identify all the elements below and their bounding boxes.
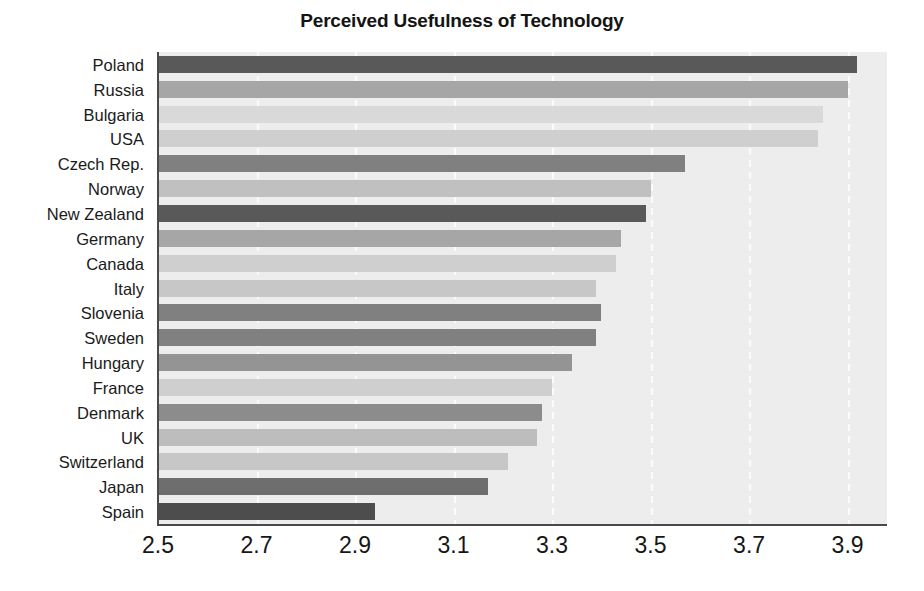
category-label-spain: Spain bbox=[0, 504, 151, 521]
bar-slovenia bbox=[158, 304, 601, 321]
category-label-japan: Japan bbox=[0, 479, 151, 496]
category-label-russia: Russia bbox=[0, 82, 151, 99]
bar-czech-rep bbox=[158, 155, 685, 172]
x-tick-label-2.7: 2.7 bbox=[241, 533, 273, 557]
bar-japan bbox=[158, 478, 488, 495]
bar-italy bbox=[158, 280, 596, 297]
category-label-germany: Germany bbox=[0, 231, 151, 248]
bar-usa bbox=[158, 130, 818, 147]
x-axis-tick-labels: 2.52.72.93.13.33.53.73.9 bbox=[0, 533, 924, 573]
category-label-new-zealand: New Zealand bbox=[0, 206, 151, 223]
gridline-3.7 bbox=[749, 52, 751, 524]
category-label-denmark: Denmark bbox=[0, 405, 151, 422]
category-label-poland: Poland bbox=[0, 57, 151, 74]
category-label-norway: Norway bbox=[0, 181, 151, 198]
plot-area bbox=[158, 52, 887, 524]
bar-sweden bbox=[158, 329, 596, 346]
category-label-usa: USA bbox=[0, 131, 151, 148]
bar-switzerland bbox=[158, 453, 508, 470]
gridline-3.5 bbox=[651, 52, 653, 524]
bar-russia bbox=[158, 81, 848, 98]
x-tick-label-3.9: 3.9 bbox=[832, 533, 864, 557]
x-tick-label-3.3: 3.3 bbox=[536, 533, 568, 557]
x-tick-label-3.7: 3.7 bbox=[733, 533, 765, 557]
bar-uk bbox=[158, 429, 537, 446]
x-tick-label-2.9: 2.9 bbox=[339, 533, 371, 557]
bar-poland bbox=[158, 56, 857, 73]
category-label-sweden: Sweden bbox=[0, 330, 151, 347]
x-axis-line bbox=[157, 524, 887, 526]
x-tick-label-3.1: 3.1 bbox=[438, 533, 470, 557]
category-label-hungary: Hungary bbox=[0, 355, 151, 372]
category-label-canada: Canada bbox=[0, 256, 151, 273]
gridline-3.9 bbox=[848, 52, 850, 524]
category-axis-labels: PolandRussiaBulgariaUSACzech Rep.NorwayN… bbox=[0, 52, 151, 524]
category-label-switzerland: Switzerland bbox=[0, 454, 151, 471]
y-axis-line bbox=[157, 52, 159, 525]
x-tick-label-2.5: 2.5 bbox=[142, 533, 174, 557]
category-label-france: France bbox=[0, 380, 151, 397]
category-label-czech-rep: Czech Rep. bbox=[0, 156, 151, 173]
chart-title: Perceived Usefulness of Technology bbox=[0, 10, 924, 32]
category-label-uk: UK bbox=[0, 430, 151, 447]
bar-hungary bbox=[158, 354, 572, 371]
bar-chart: Perceived Usefulness of Technology Polan… bbox=[0, 0, 924, 591]
bar-new-zealand bbox=[158, 205, 646, 222]
bar-denmark bbox=[158, 404, 542, 421]
bar-norway bbox=[158, 180, 651, 197]
bar-france bbox=[158, 379, 552, 396]
bar-spain bbox=[158, 503, 375, 520]
bar-canada bbox=[158, 255, 616, 272]
category-label-bulgaria: Bulgaria bbox=[0, 107, 151, 124]
category-label-slovenia: Slovenia bbox=[0, 305, 151, 322]
x-tick-label-3.5: 3.5 bbox=[635, 533, 667, 557]
category-label-italy: Italy bbox=[0, 281, 151, 298]
bar-bulgaria bbox=[158, 106, 823, 123]
bar-germany bbox=[158, 230, 621, 247]
